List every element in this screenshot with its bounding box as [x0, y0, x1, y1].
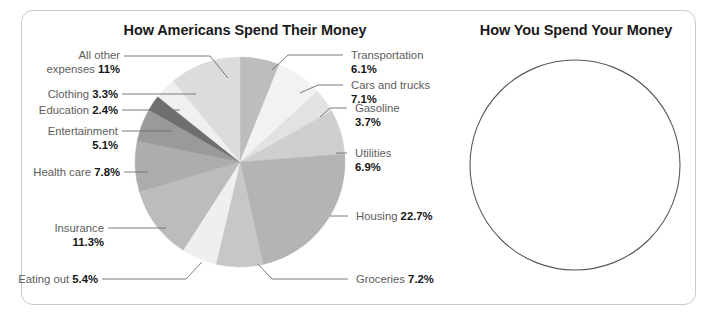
label-all-other-line1: All other: [79, 49, 120, 61]
label-cars-and-trucks-text: Cars and trucks: [351, 79, 430, 91]
value-groceries: 7.2%: [408, 273, 434, 285]
label-gasoline: Gasoline 3.7%: [355, 101, 400, 129]
value-clothing: 3.3%: [92, 88, 118, 100]
value-entertainment: 5.1%: [92, 139, 118, 151]
label-insurance-text: Insurance: [54, 222, 104, 234]
value-eating-out: 5.4%: [72, 273, 98, 285]
value-insurance: 11.3%: [73, 236, 104, 248]
label-insurance: Insurance 11.3%: [4, 221, 104, 249]
label-all-other-line2: expenses: [47, 63, 99, 75]
label-groceries: Groceries 7.2%: [356, 272, 434, 286]
screenshot-root: How Americans Spend Their Money How You …: [0, 0, 717, 323]
value-all-other: 11%: [98, 63, 120, 75]
label-groceries-text: Groceries: [356, 273, 408, 285]
label-education: Education 2.4%: [4, 103, 118, 117]
label-transportation: Transportation 6.1%: [351, 48, 423, 76]
value-health-care: 7.8%: [94, 166, 120, 178]
label-entertainment: Entertainment 5.1%: [4, 124, 118, 152]
label-health-care: Health care 7.8%: [4, 165, 120, 179]
value-housing: 22.7%: [401, 210, 433, 222]
label-clothing: Clothing 3.3%: [4, 87, 118, 101]
value-utilities: 6.9%: [355, 161, 381, 173]
label-all-other-expenses: All other expenses 11%: [4, 48, 120, 76]
label-utilities-text: Utilities: [355, 147, 391, 159]
label-health-care-text: Health care: [33, 166, 94, 178]
value-gasoline: 3.7%: [355, 116, 381, 128]
label-housing-text: Housing: [356, 210, 401, 222]
label-clothing-text: Clothing: [48, 88, 93, 100]
label-gasoline-text: Gasoline: [355, 102, 400, 114]
label-utilities: Utilities 6.9%: [355, 146, 391, 174]
label-eating-out: Eating out 5.4%: [4, 272, 98, 286]
label-transportation-text: Transportation: [351, 49, 423, 61]
label-entertainment-text: Entertainment: [48, 125, 118, 137]
leader-line-groceries: [258, 264, 348, 279]
label-housing: Housing 22.7%: [356, 209, 433, 223]
value-education: 2.4%: [92, 104, 118, 116]
value-transportation: 6.1%: [351, 63, 377, 75]
label-eating-out-text: Eating out: [18, 273, 72, 285]
pie-chart[interactable]: [135, 57, 345, 267]
blank-pie-circle[interactable]: [470, 60, 680, 270]
leader-line-eating-out: [102, 262, 202, 279]
label-education-text: Education: [39, 104, 92, 116]
